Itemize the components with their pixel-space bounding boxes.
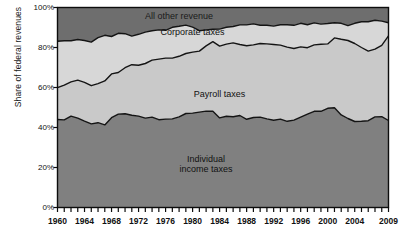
y-tick-label: 80% — [20, 44, 54, 52]
x-tick-label: 1968 — [102, 216, 121, 226]
x-tick-label: 2009 — [379, 216, 398, 226]
y-tick-label: 0% — [20, 204, 54, 212]
y-tick-label: 100% — [20, 4, 54, 12]
y-axis-ticks: 100%80%60%40%20%0% — [14, 0, 54, 238]
series-label: Corporate taxes — [161, 27, 225, 37]
y-tick-label: 60% — [20, 84, 54, 92]
x-tick-label: 1980 — [183, 216, 202, 226]
series-label: Payroll taxes — [194, 89, 246, 99]
x-tick-label: 1984 — [210, 216, 229, 226]
x-tick-label: 2000 — [318, 216, 337, 226]
x-tick-label: 2004 — [345, 216, 364, 226]
x-tick-label: 1988 — [237, 216, 256, 226]
y-tick-label: 40% — [20, 124, 54, 132]
x-tick-label: 1976 — [156, 216, 175, 226]
series-label: Individualincome taxes — [180, 154, 233, 174]
series-label-line: income taxes — [180, 164, 233, 174]
series-label-line: Corporate taxes — [161, 27, 225, 37]
series-label: All other revenue — [145, 11, 213, 21]
x-tick-label: 1960 — [48, 216, 67, 226]
x-tick-label: 1964 — [75, 216, 94, 226]
series-label-line: Payroll taxes — [194, 89, 246, 99]
stacked-area-chart: Share of federal revenues 100%80%60%40%2… — [0, 0, 401, 238]
x-tick-label: 1996 — [291, 216, 310, 226]
y-tick-label: 20% — [20, 164, 54, 172]
x-tick-label: 1972 — [129, 216, 148, 226]
x-tick-label: 1992 — [264, 216, 283, 226]
series-label-line: All other revenue — [145, 11, 213, 21]
series-label-line: Individual — [180, 154, 233, 164]
